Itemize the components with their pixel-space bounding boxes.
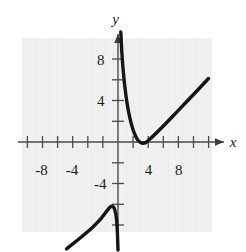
- y-tick-label-8: 8: [97, 52, 105, 68]
- function-graph: -8 -4 4 8 8 4 -4 y x: [0, 0, 246, 252]
- x-tick-label--4: -4: [66, 162, 79, 178]
- x-tick-label--8: -8: [35, 162, 48, 178]
- graph-screenshot: -8 -4 4 8 8 4 -4 y x: [0, 0, 246, 252]
- x-tick-label-4: 4: [145, 162, 153, 178]
- x-axis-arrowhead: [215, 138, 224, 146]
- y-tick-label--4: -4: [94, 176, 107, 192]
- x-tick-label-8: 8: [175, 162, 183, 178]
- y-tick-label-4: 4: [97, 93, 105, 109]
- plot-area-background: [22, 38, 212, 232]
- y-axis-label: y: [110, 11, 119, 27]
- x-axis-label: x: [229, 134, 237, 150]
